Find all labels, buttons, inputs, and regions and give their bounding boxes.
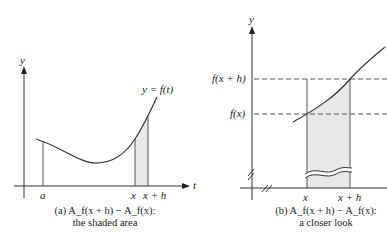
caption-b: (b) A_f(x + h) − A_f(x): a closer look — [265, 205, 387, 229]
caption-b-line2: a closer look — [265, 217, 387, 229]
curve-label-a: y = f(t) — [142, 83, 173, 95]
tick-label-a: a — [40, 189, 46, 201]
tick-label-xh-b: x + h — [338, 191, 361, 203]
label-fxh: f(x + h) — [212, 72, 246, 84]
y-axis-label-b: y — [249, 13, 254, 25]
caption-a-line2: the shaded area — [40, 217, 170, 229]
tick-label-x-b: x — [303, 191, 308, 203]
t-axis-label-a: t — [193, 179, 196, 191]
caption-a: (a) A_f(x + h) − A_f(x): the shaded area — [40, 205, 170, 229]
label-fx: f(x) — [230, 107, 245, 119]
tick-label-xh-a: x + h — [143, 189, 166, 201]
caption-b-line1: (b) A_f(x + h) − A_f(x): — [265, 205, 387, 217]
tick-label-x-a: x — [131, 189, 136, 201]
y-axis-label-a: y — [20, 54, 25, 66]
caption-a-line1: (a) A_f(x + h) − A_f(x): — [40, 205, 170, 217]
